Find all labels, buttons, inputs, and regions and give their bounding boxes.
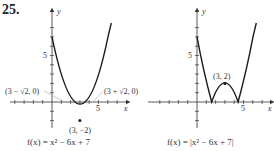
right-abs-curve bbox=[197, 23, 256, 102]
right-root-label: (3 + √2, 0) bbox=[104, 87, 139, 96]
right-graph: y x 5 5 (3, 2) bbox=[148, 7, 272, 128]
left-x-label: x bbox=[123, 104, 128, 113]
right-x-tick-label: 5 bbox=[241, 104, 245, 113]
graphs-canvas: y x 5 5 (3 − √2, 0) (3 + √2, 0) (3, −2) bbox=[0, 0, 274, 151]
left-root-label: (3 − √2, 0) bbox=[5, 87, 40, 96]
left-x-tick-label: 5 bbox=[96, 104, 100, 113]
right-y-tick-label: 5 bbox=[188, 51, 192, 60]
left-vertex-label: (3, −2) bbox=[69, 126, 91, 135]
left-graph: y x 5 5 (3 − √2, 0) (3 + √2, 0) (3, −2) bbox=[5, 7, 139, 135]
left-vertex-point bbox=[78, 119, 81, 122]
right-vertex-label: (3, 2) bbox=[213, 72, 231, 81]
right-x-label: x bbox=[267, 104, 272, 113]
right-caption: f(x) = |x² − 6x + 7| bbox=[167, 137, 234, 147]
left-y-tick-label: 5 bbox=[43, 51, 47, 60]
left-y-label: y bbox=[56, 7, 61, 16]
left-caption: f(x) = x² − 6x + 7 bbox=[27, 137, 90, 147]
right-y-label: y bbox=[201, 7, 206, 16]
right-root-leader bbox=[93, 91, 103, 102]
left-root-leader bbox=[44, 91, 65, 102]
right-vertex-point bbox=[223, 82, 226, 85]
